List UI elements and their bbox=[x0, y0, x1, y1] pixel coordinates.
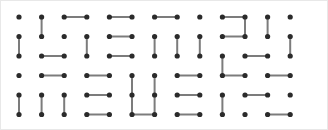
grid-dot bbox=[152, 53, 157, 58]
grid-dot bbox=[242, 53, 247, 58]
grid-dot bbox=[288, 73, 293, 78]
grid-dot bbox=[175, 112, 180, 117]
grid-dot bbox=[220, 73, 225, 78]
grid-dot bbox=[84, 14, 89, 19]
grid-dot bbox=[107, 53, 112, 58]
grid-dot bbox=[220, 53, 225, 58]
grid-dot bbox=[62, 112, 67, 117]
grid-dot bbox=[152, 92, 157, 97]
grid-dot bbox=[16, 34, 21, 39]
grid-dot bbox=[197, 53, 202, 58]
grid-dot bbox=[62, 53, 67, 58]
grid-dot bbox=[39, 73, 44, 78]
dimer-grid-figure bbox=[0, 0, 328, 130]
figure-background bbox=[1, 1, 328, 130]
grid-dot bbox=[62, 14, 67, 19]
grid-dot bbox=[84, 53, 89, 58]
grid-dot bbox=[265, 112, 270, 117]
grid-dot bbox=[197, 73, 202, 78]
grid-dot bbox=[107, 34, 112, 39]
grid-dot bbox=[129, 112, 134, 117]
grid-dot bbox=[220, 92, 225, 97]
grid-dot bbox=[62, 92, 67, 97]
grid-dot bbox=[175, 14, 180, 19]
grid-dot bbox=[84, 73, 89, 78]
grid-dot bbox=[265, 14, 270, 19]
grid-dot bbox=[16, 53, 21, 58]
grid-dot bbox=[84, 92, 89, 97]
grid-dot bbox=[129, 34, 134, 39]
grid-dot bbox=[220, 112, 225, 117]
grid-dot bbox=[107, 14, 112, 19]
grid-dot bbox=[62, 73, 67, 78]
grid-dot bbox=[242, 14, 247, 19]
grid-dot bbox=[265, 53, 270, 58]
grid-dot bbox=[265, 92, 270, 97]
grid-dot bbox=[62, 34, 67, 39]
grid-dot bbox=[220, 14, 225, 19]
grid-dot bbox=[242, 112, 247, 117]
grid-dot bbox=[242, 73, 247, 78]
grid-dot bbox=[129, 14, 134, 19]
grid-dot bbox=[107, 73, 112, 78]
dimer-grid-canvas bbox=[1, 1, 328, 130]
grid-dot bbox=[39, 92, 44, 97]
grid-dot bbox=[16, 73, 21, 78]
grid-dot bbox=[39, 53, 44, 58]
grid-dot bbox=[288, 53, 293, 58]
grid-dot bbox=[288, 34, 293, 39]
grid-dot bbox=[175, 73, 180, 78]
grid-dot bbox=[129, 53, 134, 58]
grid-dot bbox=[16, 14, 21, 19]
grid-dot bbox=[129, 92, 134, 97]
grid-dot bbox=[265, 73, 270, 78]
grid-dot bbox=[39, 14, 44, 19]
grid-dot bbox=[16, 112, 21, 117]
grid-dot bbox=[152, 73, 157, 78]
grid-dot bbox=[288, 14, 293, 19]
grid-dot bbox=[175, 53, 180, 58]
grid-dot bbox=[220, 34, 225, 39]
grid-dot bbox=[288, 92, 293, 97]
grid-dot bbox=[84, 112, 89, 117]
grid-dot bbox=[107, 112, 112, 117]
grid-dot bbox=[175, 92, 180, 97]
grid-dot bbox=[152, 14, 157, 19]
grid-dot bbox=[39, 34, 44, 39]
grid-dot bbox=[107, 92, 112, 97]
grid-dot bbox=[242, 34, 247, 39]
grid-dot bbox=[242, 92, 247, 97]
grid-dot bbox=[16, 92, 21, 97]
grid-dot bbox=[152, 34, 157, 39]
grid-dot bbox=[84, 34, 89, 39]
grid-dot bbox=[288, 112, 293, 117]
grid-dot bbox=[152, 112, 157, 117]
grid-dot bbox=[197, 112, 202, 117]
grid-dot bbox=[197, 92, 202, 97]
grid-dot bbox=[197, 34, 202, 39]
grid-dot bbox=[265, 34, 270, 39]
grid-dot bbox=[39, 112, 44, 117]
grid-dot bbox=[129, 73, 134, 78]
grid-dot bbox=[175, 34, 180, 39]
grid-dot bbox=[197, 14, 202, 19]
